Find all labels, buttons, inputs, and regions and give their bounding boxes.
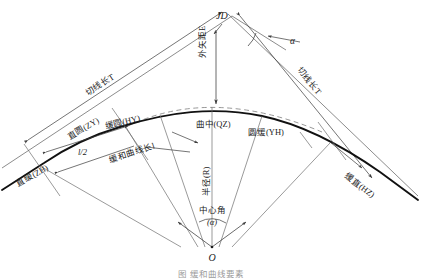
tick-yh-inner [300,132,312,148]
label-point-yh: 圆缓(YH) [244,128,288,138]
label-central-angle: 中心角 [186,206,238,216]
label-external-distance: 外矢距E [198,26,208,58]
figure-caption: 图 缓和曲线要素 [0,267,422,279]
alpha-leader [268,36,300,42]
tangent-extension-line [232,16,286,50]
centre-point-marker [211,246,214,249]
label-deflection-angle: α [290,36,295,47]
label-jd: JD [216,10,228,22]
radial-zh [40,166,181,247]
right-tangent-line [228,14,418,196]
label-central-angle-symbol: (α) [186,218,238,228]
label-point-o: O [196,252,228,264]
label-radius: 半径(R) [202,167,212,196]
hy-leader [172,132,198,143]
label-half-transition: l/2 [78,148,87,158]
radial-hz [232,143,330,247]
label-point-qz: 曲中(QZ) [190,120,236,130]
